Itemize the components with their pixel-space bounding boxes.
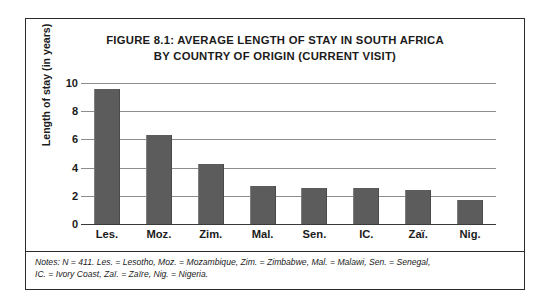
bar-zim [198, 164, 224, 224]
bar-sen [301, 188, 327, 224]
bar-nig [457, 200, 483, 224]
bar-les [94, 89, 120, 224]
bar-series [81, 83, 496, 224]
bar-ic [353, 188, 379, 224]
x-tick-label-4: Sen. [303, 228, 327, 240]
figure-notes: Notes: N = 411. Les. = Lesotho, Moz. = M… [35, 257, 517, 280]
bar-mal [250, 186, 276, 224]
figure-frame: FIGURE 8.1: AVERAGE LENGTH OF STAY IN SO… [25, 18, 525, 290]
y-axis-title: Length of stay (in years) [40, 5, 52, 165]
y-tick-label-4: 4 [72, 162, 78, 174]
y-tick-label-2: 2 [72, 190, 78, 202]
x-axis-tick-labels: Les.Moz.Zim.Mal.Sen.IC.Zaï.Nig. [81, 228, 496, 244]
gridline-0 [81, 224, 496, 225]
figure-title-line-1: FIGURE 8.1: AVERAGE LENGTH OF STAY IN SO… [26, 33, 524, 49]
figure-title-line-2: BY COUNTRY OF ORIGIN (CURRENT VISIT) [26, 49, 524, 65]
y-tick-label-0: 0 [72, 218, 78, 230]
notes-divider [26, 251, 524, 252]
x-tick-label-0: Les. [96, 228, 118, 240]
figure-notes-line-1: Notes: N = 411. Les. = Lesotho, Moz. = M… [35, 257, 517, 269]
x-tick-label-7: Nig. [459, 228, 480, 240]
x-tick-label-2: Zim. [199, 228, 222, 240]
x-tick-label-6: Zaï. [409, 228, 428, 240]
y-tick-label-10: 10 [66, 77, 78, 89]
x-tick-label-3: Mal. [252, 228, 274, 240]
bar-za [405, 190, 431, 224]
y-tick-label-8: 8 [72, 105, 78, 117]
y-tick-label-6: 6 [72, 133, 78, 145]
figure-title: FIGURE 8.1: AVERAGE LENGTH OF STAY IN SO… [26, 33, 524, 64]
x-tick-label-5: IC. [359, 228, 373, 240]
bar-moz [146, 135, 172, 224]
y-axis-tick-labels: 0246810 [54, 83, 78, 224]
x-tick-label-1: Moz. [146, 228, 171, 240]
figure-notes-line-2: IC. = Ivory Coast, Zaï. = Zaïre, Nig. = … [35, 269, 517, 281]
